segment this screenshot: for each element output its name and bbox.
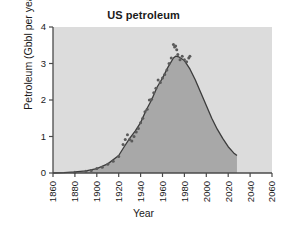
data-point (161, 77, 164, 80)
x-tick-label: 1860 (47, 181, 58, 202)
x-tick-label: 1940 (135, 181, 146, 202)
y-tick-label: 1 (41, 131, 46, 142)
y-tick-label: 4 (41, 21, 46, 32)
data-point (143, 110, 146, 113)
data-point (159, 81, 162, 84)
data-point (133, 135, 136, 138)
data-point (135, 131, 138, 134)
x-tick-label: 1980 (179, 181, 190, 202)
data-point (106, 163, 109, 166)
data-point (117, 155, 120, 158)
data-point (188, 55, 191, 58)
data-point (170, 57, 173, 60)
data-point (150, 98, 153, 101)
data-point (165, 69, 168, 72)
x-tick-label: 1880 (69, 181, 80, 202)
data-point (176, 53, 179, 56)
data-point (152, 91, 155, 94)
x-tick-labels: 1860188019001920194019601980200020202040… (47, 181, 277, 202)
data-point (174, 44, 177, 47)
x-tick-label: 2060 (266, 181, 277, 202)
data-point (146, 108, 149, 111)
data-point (185, 60, 188, 63)
data-point (157, 78, 160, 81)
data-point (122, 143, 125, 146)
data-point (84, 170, 87, 173)
x-tick-label: 2000 (201, 181, 212, 202)
data-point (126, 133, 129, 136)
data-point (101, 166, 104, 169)
data-point (95, 167, 98, 170)
data-point (181, 55, 184, 58)
data-point (175, 48, 178, 51)
data-point (112, 160, 115, 163)
y-tick-labels: 01234 (41, 21, 46, 178)
data-point (139, 121, 142, 124)
x-tick-label: 2020 (223, 181, 234, 202)
data-point (124, 138, 127, 141)
data-point (141, 117, 144, 120)
y-tick-label: 0 (41, 167, 46, 178)
data-point (179, 58, 182, 61)
y-tick-label: 2 (41, 94, 46, 105)
data-point (130, 139, 133, 142)
data-point (90, 169, 93, 172)
data-point (163, 73, 166, 76)
y-tick-label: 3 (41, 58, 46, 69)
chart-figure: US petroleum Petroleum (Gbbl per year) Y… (0, 0, 287, 230)
plot-area: 01234 1860188019001920194019601980200020… (0, 0, 287, 230)
data-point (137, 127, 140, 130)
x-tick-label: 1900 (91, 181, 102, 202)
data-point (168, 62, 171, 65)
data-point (154, 87, 157, 90)
x-tick-label: 2040 (245, 181, 256, 202)
x-tick-label: 1960 (157, 181, 168, 202)
x-tick-label: 1920 (113, 181, 124, 202)
